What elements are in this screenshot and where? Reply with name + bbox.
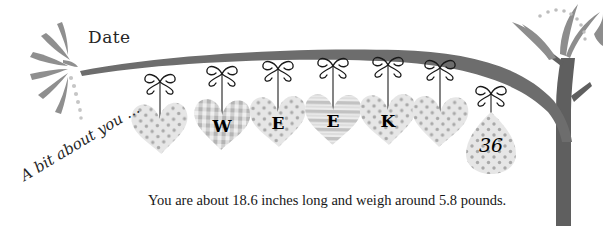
egg-tag: 36	[466, 87, 516, 174]
date-label: Date	[88, 27, 131, 47]
measurement-text: You are about 18.6 inches long and weigh…	[148, 192, 506, 209]
left-dotted-trail	[69, 76, 83, 120]
heart-2: W	[193, 67, 251, 151]
heart-5: K	[359, 58, 417, 146]
tree-leaves	[512, 4, 603, 60]
heart-3: E	[249, 62, 307, 148]
heart-4: E	[305, 59, 362, 146]
heart-letter: E	[272, 113, 285, 133]
week-number: 36	[479, 134, 503, 156]
hanging-items-group: WEEK36	[131, 58, 516, 174]
left-fan-decoration	[30, 22, 78, 114]
heart-letter: W	[211, 116, 232, 136]
heart-letter: K	[381, 111, 397, 131]
page-canvas: WEEK36 Date A bit about you … You are ab…	[0, 0, 603, 226]
heart-6	[411, 61, 469, 148]
heart-letter: E	[327, 111, 340, 131]
